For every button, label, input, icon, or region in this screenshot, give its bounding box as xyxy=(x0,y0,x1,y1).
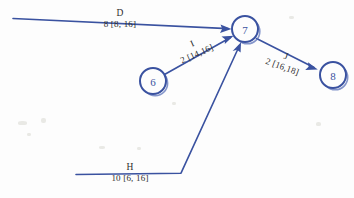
node-6[interactable]: 6 xyxy=(140,68,168,96)
scan-speck xyxy=(27,133,31,136)
edge-H-label: H 10 [6, 16] xyxy=(89,162,171,183)
edge-H xyxy=(76,42,241,174)
node-8[interactable]: 8 xyxy=(320,62,348,90)
edge-H-line xyxy=(76,46,240,175)
scan-speck xyxy=(172,102,176,105)
scan-speck xyxy=(137,147,141,150)
node-7[interactable]: 7 xyxy=(232,16,260,44)
edge-H-duration: 10 [6, 16] xyxy=(89,173,171,183)
scan-speck xyxy=(289,16,294,19)
node-8-label: 8 xyxy=(330,70,336,82)
edge-D-duration: 8 [8, 16] xyxy=(81,19,159,29)
edge-D-label: D 8 [8, 16] xyxy=(81,8,159,29)
node-7-label: 7 xyxy=(242,24,248,36)
node-6-label: 6 xyxy=(150,76,156,88)
network-graph: 6 7 8 xyxy=(0,0,354,198)
diagram-canvas: 6 7 8 D 8 [8, 16] I 2 [14,16] H 10 [6, 1… xyxy=(0,0,354,198)
scan-speck xyxy=(316,122,321,126)
scan-speck xyxy=(18,121,27,125)
scan-speck xyxy=(99,146,105,149)
edge-D-activity: D xyxy=(81,8,159,19)
scan-speck xyxy=(41,118,46,123)
edge-H-activity: H xyxy=(89,162,171,173)
